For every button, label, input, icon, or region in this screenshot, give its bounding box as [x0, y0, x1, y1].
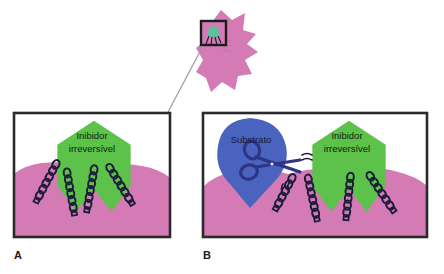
panel-b-inhibitor-label-line2: irreversível [324, 143, 370, 154]
panel-b-substrate-label: Substrato [231, 134, 272, 145]
panel-a-inhibitor-label-line1: Inibidor [76, 130, 107, 141]
enzyme-inset-box [201, 21, 226, 45]
panel-b-scissors-pivot [270, 162, 273, 165]
panel-a-label: A [14, 249, 22, 261]
figure-canvas: E [0, 0, 444, 274]
panel-b-label: B [203, 249, 211, 261]
panel-b-inhibitor-label-line1: Inibidor [331, 130, 362, 141]
panel-a-inhibitor-label-line2: irreversível [69, 143, 115, 154]
